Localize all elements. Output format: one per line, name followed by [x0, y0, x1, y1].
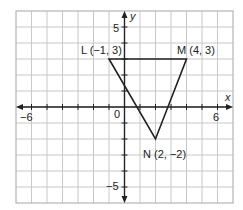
- x-tick-label-6: 6: [213, 111, 219, 123]
- vertex-label-n: N (2, −2): [143, 148, 186, 160]
- vertex-label-m: M (4, 3): [177, 44, 215, 56]
- y-tick-label-5: 5: [113, 22, 119, 34]
- y-axis-up-arrow-icon: [122, 11, 128, 18]
- coordinate-plane: x y −6 0 6 5 −5 L (−1, 3) M (4, 3) N (2,…: [0, 0, 243, 210]
- y-axis-down-arrow-icon: [122, 196, 128, 203]
- coordinate-plane-svg: x y −6 0 6 5 −5 L (−1, 3) M (4, 3) N (2,…: [0, 0, 243, 210]
- x-axis-right-arrow-icon: [226, 104, 233, 110]
- origin-label: 0: [114, 108, 120, 120]
- x-axis-left-arrow-icon: [16, 104, 23, 110]
- y-axis-label: y: [129, 10, 137, 22]
- labels: x y −6 0 6 5 −5 L (−1, 3) M (4, 3) N (2,…: [20, 10, 231, 192]
- x-axis-label: x: [224, 91, 231, 103]
- axes: [16, 11, 233, 203]
- x-tick-label-neg6: −6: [20, 111, 33, 123]
- vertex-label-l: L (−1, 3): [81, 44, 122, 56]
- y-tick-label-neg5: −5: [106, 180, 119, 192]
- triangle-lmn: [109, 59, 187, 139]
